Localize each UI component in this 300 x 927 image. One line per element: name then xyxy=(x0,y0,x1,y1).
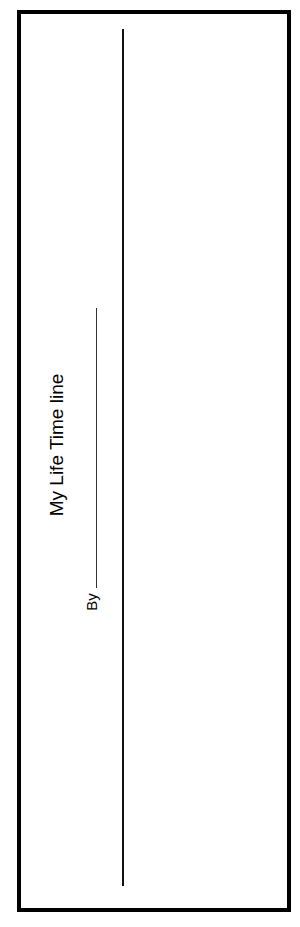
author-name-blank-line xyxy=(96,308,97,588)
by-label: By xyxy=(83,593,100,611)
timeline-line xyxy=(122,29,124,886)
page-title: My Life Time line xyxy=(46,374,68,517)
